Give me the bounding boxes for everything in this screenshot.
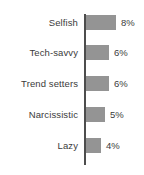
bar-trend-setters (86, 76, 109, 91)
bar-tech-savvy (86, 45, 109, 60)
table-row: Tech-savvy 6% (0, 44, 144, 61)
bar-wrap-selfish: 8% (86, 14, 135, 31)
bar-wrap-narcissistic: 5% (86, 106, 124, 123)
table-row: Selfish 8% (0, 14, 144, 31)
value-label-tech-savvy: 6% (114, 47, 128, 58)
category-label-lazy: Lazy (0, 140, 78, 151)
bar-selfish (86, 15, 116, 30)
value-label-selfish: 8% (121, 17, 135, 28)
bar-chart: Selfish 8% Tech-savvy 6% Trend setters 6… (0, 0, 144, 175)
value-label-trend-setters: 6% (114, 78, 128, 89)
table-row: Trend setters 6% (0, 75, 144, 92)
bar-wrap-tech-savvy: 6% (86, 44, 128, 61)
bar-wrap-lazy: 4% (86, 137, 120, 154)
bar-narcissistic (86, 107, 105, 122)
table-row: Lazy 4% (0, 137, 144, 154)
value-label-lazy: 4% (106, 140, 120, 151)
bar-lazy (86, 138, 101, 153)
value-label-narcissistic: 5% (110, 109, 124, 120)
category-label-narcissistic: Narcissistic (0, 109, 78, 120)
category-label-selfish: Selfish (0, 17, 78, 28)
category-label-tech-savvy: Tech-savvy (0, 47, 78, 58)
bar-wrap-trend-setters: 6% (86, 75, 128, 92)
category-label-trend-setters: Trend setters (0, 78, 78, 89)
bar-rows-container: Selfish 8% Tech-savvy 6% Trend setters 6… (0, 14, 144, 165)
table-row: Narcissistic 5% (0, 106, 144, 123)
